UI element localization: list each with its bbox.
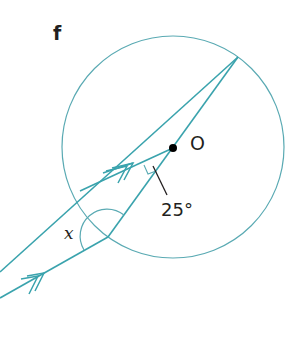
parallel-line-lower [0, 237, 108, 298]
parallel-line-upper [136, 148, 173, 165]
angle-arc-x [80, 209, 124, 250]
center-point-icon [169, 144, 177, 152]
angle-pointer-line [153, 166, 167, 195]
circle-theorem-diagram [0, 0, 294, 345]
part-label: f [53, 24, 61, 43]
center-label: O [190, 134, 205, 153]
unknown-angle-label: x [64, 225, 74, 242]
given-angle-label: 25° [161, 201, 193, 219]
parallel-line-upper-extension [80, 165, 136, 191]
chord-line [0, 57, 238, 272]
